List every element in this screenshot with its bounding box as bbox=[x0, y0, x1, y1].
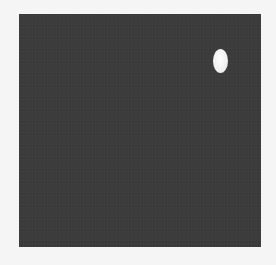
image-frame bbox=[0, 0, 276, 265]
white-oval-spot bbox=[213, 49, 228, 73]
dark-square-field bbox=[19, 14, 261, 247]
